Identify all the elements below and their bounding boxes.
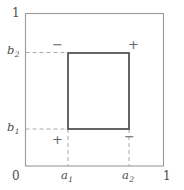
y-tick-label-b2: b2 (7, 45, 19, 57)
origin-label: 0 (12, 170, 20, 182)
y-axis-max-label: 1 (12, 7, 20, 19)
y-tick-b1-subscript: 1 (15, 127, 20, 136)
unit-square-outline (26, 14, 164, 167)
y-tick-b2-subscript: 2 (15, 50, 20, 59)
x-axis-max-label: 1 (163, 170, 171, 182)
figure-container: 1 0 1 b2 b1 a1 a2 − + + − (0, 0, 184, 190)
diagram-canvas (0, 0, 184, 190)
y-tick-b1-base: b (7, 120, 14, 134)
x-tick-label-a1: a1 (61, 170, 73, 182)
y-tick-label-b1: b1 (7, 122, 19, 134)
x-tick-a2-subscript: 2 (129, 175, 134, 184)
sign-bottom-left: + (52, 133, 63, 146)
x-tick-a2-base: a (122, 168, 129, 182)
x-tick-a1-base: a (61, 168, 68, 182)
x-tick-label-a2: a2 (122, 170, 134, 182)
sign-top-right: + (128, 38, 139, 51)
sign-bottom-right: − (124, 130, 135, 143)
sign-top-left: − (52, 38, 63, 51)
y-tick-b2-base: b (7, 43, 14, 57)
x-tick-a1-subscript: 1 (68, 175, 73, 184)
inner-rectangle-outline (68, 53, 129, 129)
